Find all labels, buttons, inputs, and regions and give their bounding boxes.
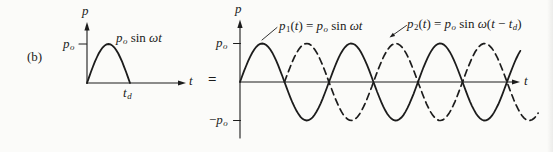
panel-label: (b) [27,50,42,63]
p1-leader-line [262,28,277,41]
left-y-axis-label: p [82,4,89,17]
half-sine-pulse-curve [87,44,130,83]
left-curve-annotation: po sin ωt [116,31,162,44]
left-p-axis-arrowhead-icon [84,22,89,31]
left-t-axis-arrowhead-icon [178,80,186,85]
p2-curve-annotation: p2(t) = po sin ω(t − td) [407,17,522,30]
left-td-tick-label: td [123,86,132,99]
left-po-tick-label: po [63,37,74,50]
figure-half-sine-pulse-decomposition: { "panel_label": "(b)", "equals_sign": "… [0,0,553,152]
right-neg-po-tick-label: −po [209,113,228,126]
page-edge-shadow [547,0,553,152]
equals-sign: = [208,72,217,87]
right-p-axis-arrowhead-icon [237,20,242,29]
right-x-axis-label: t [524,74,528,87]
p2-leader-arrowhead-icon [390,33,396,38]
p2-leader-line [393,26,407,36]
right-po-tick-label: po [216,36,227,49]
right-y-axis-label: p [235,2,242,15]
right-t-axis-arrowhead-icon [512,79,520,84]
p1-curve-annotation: p1(t) = po sin ωt [279,19,362,32]
left-x-axis-label: t [189,74,193,87]
